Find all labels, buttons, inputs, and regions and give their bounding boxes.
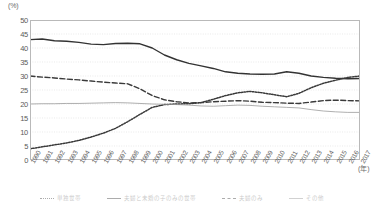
y-tick-50: 50 — [2, 16, 28, 25]
legend-swatch-solid — [107, 198, 121, 199]
legend-label: 夫婦と未婚の子のみの世帯 — [124, 194, 196, 202]
y-tick-10: 10 — [2, 128, 28, 137]
y-tick-40: 40 — [2, 44, 28, 53]
legend-label: その他 — [306, 194, 324, 202]
chart-page: (%) 05101520253035404550 199019911992199… — [0, 0, 376, 203]
y-axis-unit-label: (%) — [8, 2, 18, 9]
x-axis-unit-label: (年) — [358, 163, 370, 173]
y-tick-20: 20 — [2, 100, 28, 109]
legend-label: 単独世帯 — [57, 194, 81, 202]
y-tick-30: 30 — [2, 72, 28, 81]
legend-item-1: 夫婦と未婚の子のみの世帯 — [107, 194, 196, 202]
y-tick-0: 0 — [2, 156, 28, 165]
y-tick-25: 25 — [2, 86, 28, 95]
y-tick-45: 45 — [2, 30, 28, 39]
y-tick-35: 35 — [2, 58, 28, 67]
y-tick-5: 5 — [2, 142, 28, 151]
plot-frame-border — [30, 20, 360, 160]
y-axis-tick-labels: 05101520253035404550 — [0, 20, 28, 160]
legend-label: 夫婦のみ — [239, 194, 263, 202]
legend-swatch-thin — [289, 198, 303, 199]
legend-item-2: 夫婦のみ — [222, 194, 263, 202]
legend-swatch-dotted — [40, 198, 54, 199]
y-tick-15: 15 — [2, 114, 28, 123]
legend-swatch-dashed — [222, 198, 236, 199]
plot-area — [30, 20, 360, 160]
legend-item-3: その他 — [289, 194, 324, 202]
chart-legend: 単独世帯夫婦と未婚の子のみの世帯夫婦のみその他 — [40, 193, 340, 203]
x-axis-tick-labels: 1990199119921993199419951996199719981999… — [30, 161, 360, 195]
legend-item-0: 単独世帯 — [40, 194, 81, 202]
